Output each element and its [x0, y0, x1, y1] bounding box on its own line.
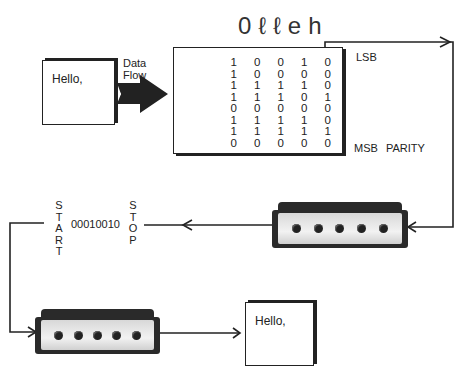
- bit-cell: 0: [293, 68, 317, 80]
- stop-bit-label: STOP: [128, 200, 138, 246]
- bit-cell: 1: [246, 79, 270, 91]
- modem-led-icon: [379, 224, 388, 233]
- bit-matrix: 1001010000111101110100000111101111100000: [173, 47, 343, 154]
- bit-cell: 1: [222, 91, 246, 103]
- bit-cell: 1: [269, 114, 293, 126]
- bit-cell: 1: [293, 79, 317, 91]
- bit-cell: 1: [269, 91, 293, 103]
- bit-matrix-row: 00000: [222, 102, 340, 114]
- modem-2: [35, 309, 160, 354]
- bit-cell: 1: [246, 125, 270, 137]
- msb-label: MSB: [354, 142, 378, 154]
- bit-cell: 0: [246, 56, 270, 68]
- bit-cell: 1: [269, 125, 293, 137]
- modem-led-icon: [112, 331, 121, 340]
- bit-matrix-row: 11111: [222, 125, 340, 137]
- bit-cell: 0: [316, 114, 340, 126]
- bit-cell: 0: [293, 137, 317, 149]
- frame-letter: S: [128, 200, 138, 212]
- bit-cell: 1: [316, 91, 340, 103]
- bit-cell: 0: [316, 137, 340, 149]
- bit-cell: 0: [269, 137, 293, 149]
- data-flow-label-line2: Flow: [123, 69, 146, 81]
- modem-1-panel: [278, 213, 402, 244]
- frame-letter: T: [54, 246, 64, 258]
- modem-led-icon: [74, 331, 83, 340]
- bit-cell: 0: [316, 79, 340, 91]
- lsb-label: LSB: [356, 51, 377, 63]
- modem-led-icon: [93, 331, 102, 340]
- title-word-olleh: 0ℓℓeh: [238, 12, 329, 40]
- bit-cell: 1: [316, 125, 340, 137]
- bit-cell: 0: [246, 68, 270, 80]
- start-bit-label: START: [54, 200, 64, 258]
- bit-matrix-row: 11110: [222, 114, 340, 126]
- parity-label: PARITY: [386, 142, 425, 154]
- modem-led-icon: [54, 331, 63, 340]
- bit-matrix-row: 10010: [222, 56, 340, 68]
- modem-led-icon: [335, 224, 344, 233]
- sender-document-text: Hello,: [52, 72, 83, 86]
- serial-bits: 00010010: [71, 218, 120, 230]
- bit-cell: 0: [293, 91, 317, 103]
- bit-cell: 1: [222, 125, 246, 137]
- modem-led-icon: [132, 331, 141, 340]
- bit-matrix-row: 11101: [222, 91, 340, 103]
- bit-cell: 0: [246, 102, 270, 114]
- bit-cell: 1: [293, 114, 317, 126]
- modem-led-icon: [314, 224, 323, 233]
- receiver-document-text: Hello,: [255, 314, 286, 328]
- modem-2-panel: [41, 320, 154, 350]
- bit-cell: 0: [246, 137, 270, 149]
- receiver-document: Hello,: [245, 302, 314, 366]
- bit-cell: 0: [222, 102, 246, 114]
- data-flow-label-line1: Data: [123, 57, 146, 69]
- bit-cell: 1: [246, 114, 270, 126]
- bit-cell: 1: [222, 79, 246, 91]
- frame-letter: O: [128, 223, 138, 235]
- bit-matrix-row: 11110: [222, 79, 340, 91]
- bit-matrix-row: 10000: [222, 68, 340, 80]
- bit-cell: 0: [293, 102, 317, 114]
- bit-cell: 0: [316, 102, 340, 114]
- bit-cell: 0: [316, 68, 340, 80]
- bit-cell: 0: [269, 68, 293, 80]
- bit-cell: 0: [269, 56, 293, 68]
- bit-cell: 1: [293, 56, 317, 68]
- bit-cell: 0: [222, 137, 246, 149]
- frame-letter: A: [54, 223, 64, 235]
- bit-matrix-row: 00000: [222, 137, 340, 149]
- bit-cell: 1: [269, 79, 293, 91]
- sender-document: Hello,: [42, 60, 115, 125]
- bit-cell: 1: [293, 125, 317, 137]
- frame-letter: P: [128, 235, 138, 247]
- modem-1: [272, 202, 408, 248]
- bit-cell: 1: [246, 91, 270, 103]
- bit-cell: 1: [222, 114, 246, 126]
- bit-cell: 0: [316, 56, 340, 68]
- bit-cell: 0: [269, 102, 293, 114]
- bit-cell: 1: [222, 56, 246, 68]
- modem-led-icon: [357, 224, 366, 233]
- data-flow-label: Data Flow: [123, 57, 146, 81]
- bit-cell: 1: [222, 68, 246, 80]
- modem-led-icon: [292, 224, 301, 233]
- frame-letter: S: [54, 200, 64, 212]
